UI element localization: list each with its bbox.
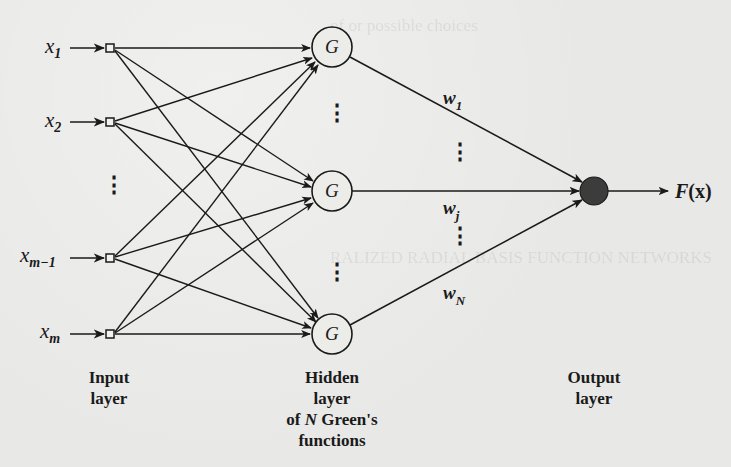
input-ellipsis: ⋮ — [103, 174, 125, 196]
output-label-arg: x — [695, 180, 705, 202]
caption-line: Output — [568, 367, 621, 388]
input-label-base: x — [20, 243, 29, 267]
input-hidden-connections — [115, 48, 318, 334]
hidden-node-label-1: G — [325, 37, 339, 56]
input-label-sub: m−1 — [29, 255, 55, 270]
hidden-node-label-j: G — [325, 181, 339, 200]
hidden-node-label-N: G — [325, 324, 339, 343]
input-label-base: x — [40, 319, 49, 343]
caption-var: N — [305, 410, 317, 429]
hidden-ellipsis-upper: ⋮ — [326, 102, 348, 124]
hidden-ellipsis-lower: ⋮ — [326, 261, 348, 283]
input-layer-caption: Input layer — [89, 367, 130, 409]
output-node — [580, 177, 608, 205]
hidden-layer-caption: Hidden layer of N Green's functions — [286, 367, 377, 451]
caption-line: Input — [89, 367, 130, 388]
weight-label-base: w — [443, 197, 456, 218]
input-label-x2: x2 — [45, 110, 61, 135]
input-arrows — [70, 48, 104, 334]
hidden-output-connections — [350, 57, 582, 325]
input-label-xm: xm — [40, 321, 60, 346]
input-label-sub: 1 — [54, 46, 61, 61]
output-label-paren: ) — [705, 180, 712, 202]
output-label-func: F — [675, 180, 688, 202]
caption-line: functions — [286, 430, 377, 451]
caption-line: layer — [89, 388, 130, 409]
input-label-base: x — [45, 34, 54, 58]
input-node-m — [106, 330, 114, 338]
weight-label-wj: wj — [443, 198, 459, 222]
caption-text: Green's — [317, 410, 378, 429]
weight-label-base: w — [443, 282, 456, 303]
weight-ellipsis-lower: ⋮ — [449, 225, 471, 247]
input-label-xm-1: xm−1 — [20, 245, 56, 270]
input-label-sub: m — [49, 331, 60, 346]
weight-label-sub: N — [456, 293, 465, 308]
caption-line: Hidden — [286, 367, 377, 388]
caption-text: of — [286, 410, 304, 429]
weight-label-sub: 1 — [456, 98, 463, 113]
weight-label-sub: j — [456, 208, 460, 223]
input-label-base: x — [45, 108, 54, 132]
input-label-x1: x1 — [45, 36, 61, 61]
input-node-2 — [106, 118, 114, 126]
weight-label-w1: w1 — [443, 88, 462, 112]
output-label-paren: ( — [688, 180, 695, 202]
input-node-m-1 — [106, 254, 114, 262]
input-label-sub: 2 — [54, 120, 61, 135]
weight-ellipsis-upper: ⋮ — [449, 141, 471, 163]
weight-label-base: w — [443, 87, 456, 108]
output-label: F(x) — [675, 181, 712, 201]
caption-line: layer — [568, 388, 621, 409]
output-layer-caption: Output layer — [568, 367, 621, 409]
caption-line: of N Green's — [286, 409, 377, 430]
input-node-1 — [106, 44, 114, 52]
caption-line: layer — [286, 388, 377, 409]
weight-label-wN: wN — [443, 283, 465, 307]
